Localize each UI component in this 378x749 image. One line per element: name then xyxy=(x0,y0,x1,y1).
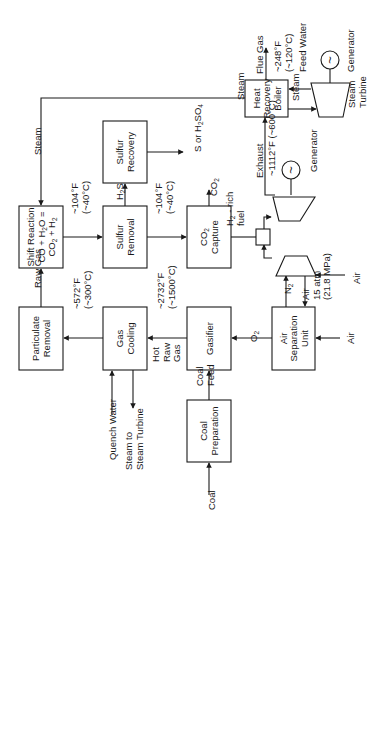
temp-sulfur-out-label-text: ~104°F xyxy=(153,183,164,214)
air-to-asu-label: Air xyxy=(345,332,356,344)
coal-preparation-label-text: Coal xyxy=(198,421,209,441)
flue-gas-label-text: Flue Gas xyxy=(254,35,265,74)
hot-raw-gas-label-text: Raw xyxy=(161,343,172,362)
quench-water-label: Quench Water xyxy=(107,399,118,460)
o2-label: O2​ xyxy=(248,331,260,342)
air-compressed-label-text: Air xyxy=(300,288,311,300)
heat-recovery-boiler-label-text: Heat xyxy=(251,88,262,108)
particulate-removal-label: ParticulateRemoval xyxy=(30,316,52,361)
gasifier-label: Gasifier xyxy=(204,322,215,355)
steam-to-st-label-text: Steam xyxy=(290,73,301,101)
air-to-compressor-label-text: Air xyxy=(351,272,362,284)
combustor-icon xyxy=(256,229,270,245)
coal-feed-label: CoalFeed xyxy=(194,364,216,386)
steam-from-hrsg-label-text: Steam xyxy=(235,72,246,100)
steam-turbine-label-label-text: Steam xyxy=(346,80,357,108)
gas-turbine-generator-label: Generator xyxy=(308,129,319,172)
flue-gas-label: Flue Gas xyxy=(254,35,265,74)
n2-label: N2​ xyxy=(282,283,294,294)
co2-out-label-text: CO2​ xyxy=(208,178,220,196)
feed-water-label: Feed Water xyxy=(297,23,308,72)
temp-flue-gas-label-text: ~248°F xyxy=(272,41,283,72)
n2-label-text: N2​ xyxy=(282,283,294,294)
temp-shift-out-label-text: ~104°F xyxy=(69,183,80,214)
steam-to-shift-label: Steam xyxy=(32,127,43,155)
gas-turbine-generator-label-text: Generator xyxy=(308,129,319,172)
temp-exhaust-label: ~1112°F (~600°C) xyxy=(266,100,277,176)
air-separation-unit-label-text: Air xyxy=(278,333,289,345)
temp-cooling-out-label-text: ~572°F xyxy=(71,278,82,309)
steam-turbine-generator-label: Generator xyxy=(345,29,356,72)
coal-feed-label-text: Feed xyxy=(205,364,216,386)
steam-turbine-icon xyxy=(311,83,350,117)
quench-water-label-text: Quench Water xyxy=(107,399,118,460)
o2-label-text: O2​ xyxy=(248,331,260,342)
temp-gasifier-out-label: ~2732°F(~1500°C) xyxy=(155,265,177,309)
steam-turbine-label-label-text: Turbine xyxy=(357,76,368,108)
temp-shift-out-label: ~104°F(~40°C) xyxy=(69,181,91,214)
gas-turbine-icon xyxy=(273,197,315,221)
feed-water-label-text: Feed Water xyxy=(297,23,308,72)
coal-input-label-text: Coal xyxy=(206,490,217,510)
hot-raw-gas-label-text: Hot xyxy=(150,347,161,362)
temp-sulfur-out-label: ~104°F(~40°C) xyxy=(153,181,175,214)
steam-from-hrsg-label: Steam xyxy=(235,72,246,100)
temp-gasifier-out-label-text: (~1500°C) xyxy=(166,265,177,309)
temp-gasifier-out-label-text: ~2732°F xyxy=(155,273,166,309)
generator-tilde-icon: ~ xyxy=(322,56,337,64)
air-compressed-label-text: 15 atm xyxy=(311,271,322,300)
coal-feed-label-text: Coal xyxy=(194,366,205,386)
air-separation-unit-label-text: Separation xyxy=(288,316,299,362)
sulfur-recovery-label-text: Recovery xyxy=(125,132,136,172)
co2-out-label: CO2​ xyxy=(208,178,220,196)
steam-to-turbine-label: Steam toSteam Turbine xyxy=(123,408,145,470)
temp-cooling-out-label: ~572°F(~300°C) xyxy=(71,271,93,309)
gas-cooling-label-text: Gas xyxy=(114,330,125,348)
air-to-compressor-label: Air xyxy=(351,272,362,284)
steam-turbine-label-label: SteamTurbine xyxy=(346,76,368,108)
steam-turbine-generator-label-text: Generator xyxy=(345,29,356,72)
temp-sulfur-out-label-text: (~40°C) xyxy=(164,181,175,214)
steam-to-turbine-label-text: Steam Turbine xyxy=(134,408,145,470)
temp-shift-out-label-text: (~40°C) xyxy=(80,181,91,214)
h2s-label-text: H2​S xyxy=(114,183,126,200)
particulate-removal-label-text: Particulate xyxy=(30,316,41,361)
temp-cooling-out-label-text: (~300°C) xyxy=(82,271,93,309)
h2-rich-fuel-label: H2​ - richfuel xyxy=(224,192,246,226)
steam-to-shift-label-text: Steam xyxy=(32,127,43,155)
s-or-h2so4-label-text: S or H2​SO4​ xyxy=(192,104,204,152)
generator-tilde-icon: ~ xyxy=(283,166,298,174)
exhaust-label: Exhaust xyxy=(254,143,265,178)
particulate-removal-label-text: Removal xyxy=(41,320,52,358)
sulfur-recovery-label-text: Sulfur xyxy=(114,140,125,165)
hot-raw-gas-label: HotRawGas xyxy=(150,343,182,362)
co2-capture-label-text: Capture xyxy=(209,220,220,254)
igcc-process-diagram: ~ ~ ParticulateRemovalGasCoolingGasifier… xyxy=(0,0,378,749)
temp-exhaust-label-text: ~1112°F (~600°C) xyxy=(266,100,277,176)
s-or-h2so4-label: S or H2​SO4​ xyxy=(192,104,204,152)
coal-input-label: Coal xyxy=(206,490,217,510)
sulfur-removal-label-text: Removal xyxy=(125,218,136,256)
gasifier-label-text: Gasifier xyxy=(204,322,215,355)
h2-rich-fuel-label-text: fuel xyxy=(235,211,246,226)
air-compressed-label-text: (21.8 MPa) xyxy=(321,253,332,300)
temp-flue-gas-label-text: (~120°C) xyxy=(283,34,294,72)
raw-gas-label: Raw Gas xyxy=(32,249,43,288)
air-separation-unit-label-text: Unit xyxy=(299,330,310,347)
exhaust-label-text: Exhaust xyxy=(254,143,265,178)
h2s-label: H2​S xyxy=(114,183,126,200)
gas-cooling-label-text: Cooling xyxy=(125,322,136,354)
sulfur-removal-label-text: Sulfur xyxy=(114,225,125,250)
coal-preparation-label-text: Preparation xyxy=(209,406,220,455)
shift-reaction-label-text: CO2​ + H2​ xyxy=(46,217,58,257)
raw-gas-label-text: Raw Gas xyxy=(32,249,43,288)
hot-raw-gas-label-text: Gas xyxy=(171,344,182,362)
steam-to-turbine-label-text: Steam to xyxy=(123,432,134,470)
steam-to-st-label: Steam xyxy=(290,73,301,101)
arrow-compressor-combustor xyxy=(264,245,272,258)
air-to-asu-label-text: Air xyxy=(345,332,356,344)
temp-flue-gas-label: ~248°F(~120°C) xyxy=(272,34,294,72)
arrow-combustor-turbine xyxy=(264,217,271,229)
